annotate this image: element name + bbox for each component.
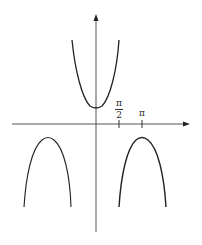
tick-label-pi-half-numerator: π <box>116 99 122 108</box>
x-axis-arrow-icon <box>183 122 190 127</box>
sec-branch-left <box>24 138 71 208</box>
y-axis-arrow-icon <box>94 14 99 21</box>
tick-label-pi-half: π 2 <box>113 99 125 120</box>
tick-label-pi: π <box>137 109 147 118</box>
secant-graph <box>0 0 202 245</box>
sec-branch-right <box>119 138 166 208</box>
tick-label-pi-half-denominator: 2 <box>116 111 122 120</box>
